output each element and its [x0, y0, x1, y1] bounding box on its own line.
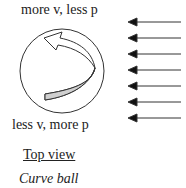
top-label: more v, less p — [21, 2, 98, 18]
view-label: Top view — [23, 147, 75, 163]
caption: Curve ball — [19, 171, 79, 187]
curve-ball-diagram: more v, less p less v, more p Top view C… — [0, 0, 186, 188]
spin-arrow-shaded-band — [45, 68, 95, 100]
airflow-arrows — [128, 18, 181, 122]
bottom-label: less v, more p — [12, 117, 89, 133]
